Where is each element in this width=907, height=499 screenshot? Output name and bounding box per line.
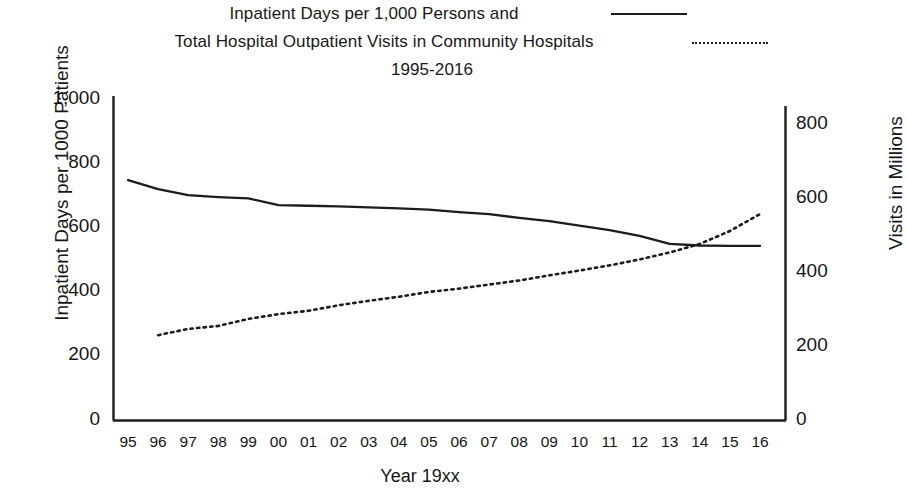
x-axis-tick-98: 98 <box>203 433 233 451</box>
y-axis-right-tick-0: 0 <box>796 408 882 430</box>
y-axis-right-title: Visits in Millions <box>885 3 907 363</box>
series-line-outpatient-visits <box>158 214 760 335</box>
x-axis-tick-02: 02 <box>324 433 354 451</box>
x-axis-tick-97: 97 <box>173 433 203 451</box>
x-axis-tick-96: 96 <box>143 433 173 451</box>
y-axis-right-tick-4: 800 <box>796 112 882 134</box>
y-axis-right-tick-2: 400 <box>796 260 882 282</box>
y-axis-left-tick-5: 1,000 <box>14 87 100 109</box>
x-axis-tick-06: 06 <box>444 433 474 451</box>
y-axis-left-tick-2: 400 <box>14 279 100 301</box>
x-axis-tick-13: 13 <box>655 433 685 451</box>
x-axis-tick-07: 07 <box>474 433 504 451</box>
y-axis-left-tick-0: 0 <box>14 408 100 430</box>
y-axis-left-tick-1: 200 <box>14 343 100 365</box>
y-axis-right-tick-1: 200 <box>796 334 882 356</box>
x-axis-tick-03: 03 <box>354 433 384 451</box>
series-line-inpatient-days <box>128 180 760 246</box>
x-axis-tick-08: 08 <box>504 433 534 451</box>
x-axis-tick-04: 04 <box>384 433 414 451</box>
x-axis-tick-12: 12 <box>625 433 655 451</box>
y-axis-left-tick-4: 800 <box>14 151 100 173</box>
y-axis-right-tick-3: 600 <box>796 186 882 208</box>
x-axis-tick-09: 09 <box>534 433 564 451</box>
x-axis-tick-01: 01 <box>294 433 324 451</box>
x-axis-tick-05: 05 <box>414 433 444 451</box>
x-axis-tick-10: 10 <box>564 433 594 451</box>
x-axis-tick-99: 99 <box>233 433 263 451</box>
x-axis-tick-11: 11 <box>595 433 625 451</box>
x-axis-tick-16: 16 <box>745 433 775 451</box>
x-axis-tick-15: 15 <box>715 433 745 451</box>
x-axis-tick-00: 00 <box>263 433 293 451</box>
x-axis-tick-95: 95 <box>113 433 143 451</box>
x-axis-tick-14: 14 <box>685 433 715 451</box>
y-axis-left-tick-3: 600 <box>14 215 100 237</box>
